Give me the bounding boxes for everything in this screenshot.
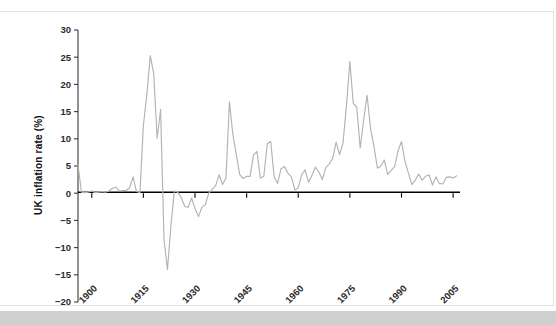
x-tick-label: 1975	[335, 282, 358, 305]
y-axis-ticks	[74, 30, 78, 302]
x-tick-label: 1945	[231, 282, 254, 305]
x-tick-label: 1960	[283, 283, 306, 306]
chart-screenshot: 302520151050−5−10−15−20 1900191519301945…	[0, 0, 556, 325]
x-tick-label: 1915	[128, 282, 151, 305]
x-tick-label: 1990	[386, 283, 409, 306]
y-tick-label: 10	[60, 133, 71, 144]
footer-bar	[0, 311, 556, 325]
x-tick-label: 1930	[180, 283, 203, 306]
x-axis-ticks	[92, 193, 453, 198]
y-tick-label: 20	[60, 79, 71, 90]
y-tick-label: 25	[60, 52, 71, 63]
y-tick-label: 30	[60, 24, 71, 35]
y-axis-title: UK inflation rate (%)	[33, 115, 44, 215]
y-tick-label: −5	[60, 215, 72, 226]
y-tick-label: −10	[55, 242, 71, 253]
x-tick-label: 1900	[76, 283, 99, 306]
inflation-chart: 302520151050−5−10−15−20 1900191519301945…	[0, 0, 556, 325]
y-tick-label: 0	[66, 188, 71, 199]
y-tick-label: 5	[66, 160, 72, 171]
inflation-series-line	[78, 56, 457, 270]
x-tick-label: 2005	[438, 282, 461, 305]
x-axis-tick-labels: 19001915193019451960197519902005	[76, 282, 461, 305]
y-tick-label: 15	[60, 106, 71, 117]
y-tick-label: −15	[55, 269, 72, 280]
y-axis-tick-labels: 302520151050−5−10−15−20	[55, 24, 72, 307]
chart-svg: 302520151050−5−10−15−20 1900191519301945…	[0, 0, 556, 325]
y-tick-label: −20	[55, 296, 71, 307]
